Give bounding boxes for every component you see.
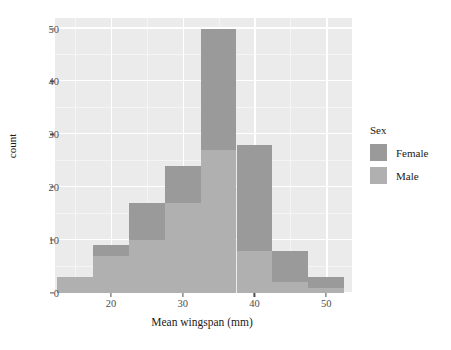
x-axis-tick-label: 20	[106, 298, 117, 309]
x-axis-tick-mark	[326, 293, 327, 297]
legend-item-label: Female	[396, 147, 428, 159]
y-axis-tick-mark	[50, 240, 54, 241]
histogram-bar	[201, 150, 237, 293]
x-axis-label: Mean wingspan (mm)	[0, 316, 404, 328]
gridline-vertical	[326, 18, 327, 293]
y-axis-tick-mark	[50, 292, 54, 293]
legend: Sex FemaleMale	[370, 124, 451, 188]
legend-swatch-icon	[370, 167, 387, 184]
histogram-bar	[57, 277, 93, 293]
legend-items: FemaleMale	[370, 142, 451, 186]
histogram-bar	[165, 203, 201, 293]
y-axis-label: count	[6, 111, 18, 181]
histogram-bar	[93, 256, 129, 293]
legend-item[interactable]: Female	[370, 142, 451, 163]
y-axis-tick-mark	[50, 187, 54, 188]
legend-item-label: Male	[396, 170, 419, 182]
y-axis-tick-mark	[50, 134, 54, 135]
y-axis-tick-mark	[50, 81, 54, 82]
x-axis-tick-label: 30	[177, 298, 188, 309]
x-axis-tick-mark	[254, 293, 255, 297]
y-axis-tick-mark	[50, 28, 54, 29]
x-axis-tick-label: 50	[321, 298, 332, 309]
x-axis-tick-mark	[110, 293, 111, 297]
histogram-bar	[129, 240, 165, 293]
plot-panel	[55, 18, 352, 293]
legend-title: Sex	[370, 124, 451, 136]
histogram-bar	[237, 251, 273, 293]
histogram-figure: 01020304050 20304050 Mean wingspan (mm) …	[0, 0, 451, 350]
x-axis-tick-label: 40	[249, 298, 260, 309]
legend-swatch-icon	[370, 144, 387, 161]
legend-item[interactable]: Male	[370, 165, 451, 186]
histogram-bar	[272, 282, 308, 293]
x-axis-tick-mark	[182, 293, 183, 297]
gridline-vertical	[75, 18, 76, 293]
y-axis-tick-label: 0	[54, 288, 59, 299]
